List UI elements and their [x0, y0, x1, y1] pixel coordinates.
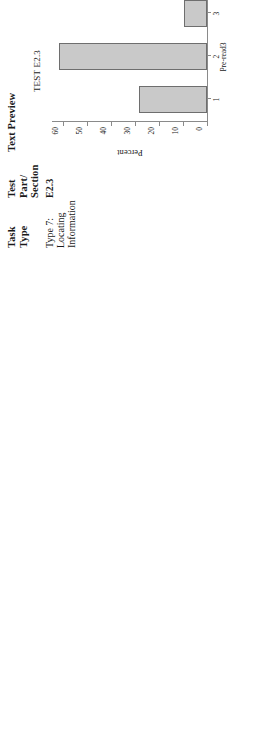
y-tick-label: 60: [51, 127, 60, 135]
column-header-test-part-section: Test Part/ Section: [6, 154, 41, 198]
bar-slot: 2: [52, 35, 207, 78]
bar: [184, 0, 207, 27]
y-tick: [159, 122, 160, 126]
chart-title-text-preview: TEST E2.3: [32, 0, 42, 156]
x-tick: [207, 99, 211, 100]
x-tick: [207, 13, 211, 14]
bar: [59, 43, 207, 70]
column-header-text-preview: Text Preview: [6, 76, 18, 152]
y-axis-label-percent: Percent: [117, 148, 143, 158]
x-tick: [207, 56, 211, 57]
y-tick-label: 20: [147, 127, 156, 135]
bar-group-text-preview: 123: [52, 0, 207, 121]
bar-slot: 1: [52, 78, 207, 121]
cell-test-part-section: E2.3: [44, 158, 55, 198]
y-tick: [183, 122, 184, 126]
column-header-task-type: Task Type: [6, 206, 29, 248]
y-tick: [135, 122, 136, 126]
chart-panel-text-preview: TEST E2.3 0102030405060 123 Percent Pre-…: [30, 0, 248, 156]
x-axis-label-preread3: Pre-read3: [219, 0, 228, 122]
y-tick-label: 30: [123, 127, 132, 135]
rotated-figure-wrapper: Task Type Test Part/ Section Text Previe…: [0, 0, 256, 256]
y-tick-label: 0: [195, 127, 204, 131]
y-tick-label: 10: [171, 127, 180, 135]
y-tick: [111, 122, 112, 126]
y-tick: [207, 122, 208, 126]
y-tick: [63, 122, 64, 126]
figure-table: Task Type Test Part/ Section Text Previe…: [0, 0, 256, 256]
bar: [139, 86, 207, 113]
bar-slot: 3: [52, 0, 207, 35]
x-axis-line: [207, 0, 208, 122]
y-axis-line: [52, 121, 208, 122]
plot-area-text-preview: 0102030405060 123 Percent Pre-read3: [52, 0, 208, 122]
y-tick: [87, 122, 88, 126]
cell-task-type: Type 7: Locating Information: [44, 204, 77, 248]
y-tick-label: 40: [99, 127, 108, 135]
y-tick-label: 50: [75, 127, 84, 135]
